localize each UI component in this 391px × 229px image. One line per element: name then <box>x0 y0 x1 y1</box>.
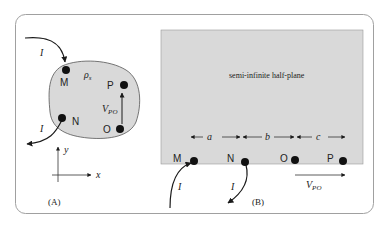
spacing-b-label: b <box>265 131 270 142</box>
node-o <box>116 125 124 133</box>
node-n <box>58 114 66 122</box>
panel-a: I I M N O P ρs VPO y x (A) <box>25 38 140 207</box>
current-out-label: I <box>39 123 44 134</box>
node-p <box>120 81 128 89</box>
node-o-label: O <box>103 124 111 135</box>
node-m <box>190 157 198 165</box>
node-n <box>241 158 249 166</box>
y-axis-label: y <box>63 144 69 155</box>
half-plane-region <box>161 30 363 164</box>
node-o <box>291 156 299 164</box>
node-m-label: M <box>60 77 68 88</box>
panel-b: semi-infinite half-plane a b c M N O P I… <box>161 30 363 208</box>
node-p <box>339 157 347 165</box>
voltage-label: VPO <box>306 179 321 192</box>
x-axis-label: x <box>95 169 101 180</box>
node-o-label: O <box>280 153 288 164</box>
node-m-label: M <box>173 153 181 164</box>
panel-a-caption: (A) <box>48 197 61 207</box>
diagram-canvas: I I M N O P ρs VPO y x (A) semi-infinite… <box>0 0 391 229</box>
panel-b-caption: (B) <box>252 197 264 207</box>
node-n-label: N <box>227 153 234 164</box>
current-out-label: I <box>230 181 235 192</box>
node-p-label: P <box>327 153 334 164</box>
spacing-c-label: c <box>316 131 321 142</box>
node-m <box>62 66 70 74</box>
node-p-label: P <box>107 80 114 91</box>
current-in-label: I <box>39 47 44 58</box>
half-plane-label: semi-infinite half-plane <box>229 71 305 80</box>
current-in-arrow <box>25 38 65 62</box>
current-in-label: I <box>177 181 182 192</box>
conductive-region <box>49 61 140 138</box>
spacing-a-label: a <box>207 131 212 142</box>
node-n-label: N <box>72 116 79 127</box>
